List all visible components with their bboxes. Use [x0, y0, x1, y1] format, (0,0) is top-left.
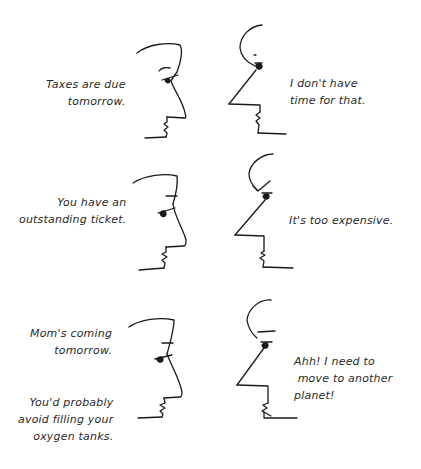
left-face-1: [137, 44, 186, 138]
right-speech-3: Ahh! I need to move to another planet!: [294, 353, 392, 404]
left-face-2: [133, 175, 186, 270]
right-speech-1: I don't have time for that.: [290, 75, 366, 109]
left-speech-1: Taxes are due tomorrow.: [46, 76, 126, 110]
left-speech-2: You have an outstanding ticket.: [19, 194, 126, 228]
right-face-3: [237, 300, 297, 418]
left-face-3: [129, 319, 182, 418]
left-speech-3: Mom's coming tomorrow.: [30, 325, 112, 359]
right-speech-2: It's too expensive.: [289, 212, 393, 229]
left-speech-3b: You'd probably avoid filling your oxygen…: [18, 394, 113, 445]
comic-canvas: Taxes are due tomorrow. I don't have tim…: [0, 0, 421, 469]
right-face-2: [235, 154, 293, 268]
right-face-1: [229, 25, 286, 134]
